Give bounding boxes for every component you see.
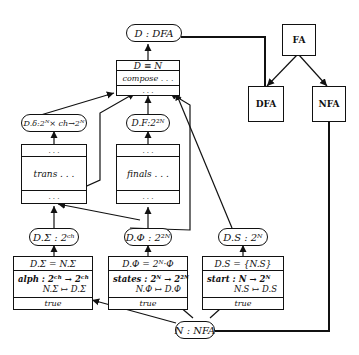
start-map: N.S ↦ D.S (203, 284, 283, 294)
node-d-delta: D.δ:2ᴺ× ch→2ᴺ (21, 114, 87, 132)
trans-footer: . . . (22, 191, 86, 203)
finals-body: finals . . . (117, 157, 179, 191)
node-d-dfa: D : DFA (126, 24, 182, 42)
start-header: D.S = {N.S} (203, 257, 283, 271)
alph-mapping: alph : 2ᶜʰ → 2ᶜʰ N.Σ ↦ D.Σ (14, 271, 92, 298)
trans-header: . . . (22, 145, 86, 157)
states-map: N.Φ ↦ D.Φ (109, 284, 187, 294)
node-d-s-label: D.S : 2ᴺ (223, 232, 262, 243)
node-d-sigma: D.Σ : 2ᶜʰ (29, 228, 79, 246)
compose-body: compose . . . (117, 71, 179, 86)
node-d-phi: D.Φ : 2²ᴺ (124, 228, 172, 246)
node-start: D.S = {N.S} start : N → 2ᴺ N.S ↦ D.S tru… (202, 256, 284, 310)
node-nfa-label: NFA (318, 99, 339, 109)
node-d-f: D.F:2²ᴺ (126, 114, 170, 132)
node-dfa: DFA (248, 86, 284, 122)
compose-footer: . . . (117, 86, 179, 95)
node-trans: . . . trans . . . . . . (21, 144, 87, 204)
node-d-delta-label: D.δ:2ᴺ× ch→2ᴺ (24, 119, 85, 128)
node-n-nfa: N : NFA (175, 321, 215, 339)
finals-footer: . . . (117, 191, 179, 203)
node-n-nfa-label: N : NFA (175, 325, 216, 336)
alph-signature: alph : 2ᶜʰ → 2ᶜʰ (14, 274, 92, 284)
trans-body: trans . . . (22, 157, 86, 191)
node-d-phi-label: D.Φ : 2²ᴺ (126, 232, 171, 243)
states-signature: states : 2ᴺ → 2²ᴺ (109, 274, 187, 284)
alph-map: N.Σ ↦ D.Σ (14, 284, 92, 294)
node-fa: FA (282, 24, 316, 56)
alph-header: D.Σ = N.Σ (14, 257, 92, 271)
node-alph: D.Σ = N.Σ alph : 2ᶜʰ → 2ᶜʰ N.Σ ↦ D.Σ tru… (13, 256, 93, 310)
start-mapping: start : N → 2ᴺ N.S ↦ D.S (203, 271, 283, 298)
node-dfa-label: DFA (256, 99, 277, 109)
alph-footer: true (14, 298, 92, 309)
node-fa-label: FA (293, 35, 306, 45)
compose-header: D ≡ N (117, 61, 179, 71)
node-d-dfa-label: D : DFA (134, 28, 173, 39)
states-footer: true (109, 298, 187, 309)
node-nfa: NFA (312, 86, 346, 122)
node-d-sigma-label: D.Σ : 2ᶜʰ (33, 232, 75, 243)
start-footer: true (203, 298, 283, 309)
node-states: D.Φ = 2ᴺ·Φ states : 2ᴺ → 2²ᴺ N.Φ ↦ D.Φ t… (108, 256, 188, 310)
node-d-s: D.S : 2ᴺ (218, 228, 268, 246)
node-compose: D ≡ N compose . . . . . . (116, 60, 180, 96)
states-header: D.Φ = 2ᴺ·Φ (109, 257, 187, 271)
finals-header: . . . (117, 145, 179, 157)
start-signature: start : N → 2ᴺ (203, 274, 283, 284)
node-finals: . . . finals . . . . . . (116, 144, 180, 204)
node-d-f-label: D.F:2²ᴺ (131, 118, 164, 128)
states-mapping: states : 2ᴺ → 2²ᴺ N.Φ ↦ D.Φ (109, 271, 187, 298)
